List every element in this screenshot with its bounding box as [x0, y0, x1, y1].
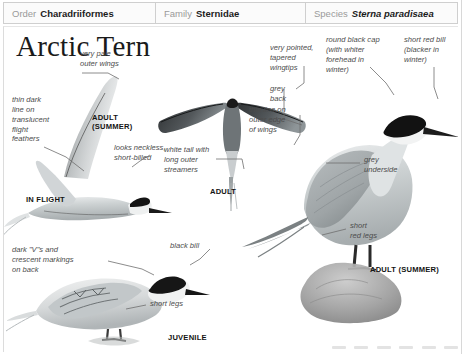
illustration-plate: Arctic Tern — [3, 26, 458, 352]
taxonomy-species-cell: Species Sterna paradisaea — [306, 3, 457, 23]
annotation-short-red-legs: short red legs — [350, 221, 377, 241]
taxonomy-species-key: Species — [314, 8, 348, 19]
bottom-dash — [444, 346, 458, 349]
annotation-dark-vs-crescents: dark "V"s and crescent markings on back — [12, 245, 74, 275]
bottom-dash — [354, 346, 368, 349]
bottom-dash — [399, 346, 413, 349]
annotation-thin-line-outer-edge: thin line on outer edge of wings — [249, 105, 286, 135]
annotation-grey-underside: grey underside — [364, 155, 397, 175]
plate-label-juvenile: JUVENILE — [168, 333, 207, 342]
annotation-very-pointed-wingtips: very pointed, tapered wingtips — [270, 43, 313, 73]
bottom-dash-row — [332, 344, 458, 351]
annotation-thin-dark-line: thin dark line on translucent flight fea… — [12, 95, 49, 144]
leader-short-red-bill — [434, 67, 438, 99]
leader-black-bill — [190, 249, 210, 265]
field-guide-plate: Order Charadriiformes Family Sternidae S… — [0, 0, 462, 354]
annotation-short-legs: short legs — [150, 299, 183, 309]
annotation-very-pale-outer-wings: very pale outer wings — [80, 49, 119, 69]
bottom-dash — [377, 346, 391, 349]
taxonomy-order-key: Order — [12, 8, 36, 19]
plate-label-adult-summer-flight: ADULT (SUMMER) — [92, 113, 132, 132]
annotation-white-tail-streamers: white tail with long outer streamers — [164, 145, 209, 175]
leader-dark-vs-crescents — [108, 261, 154, 275]
plate-label-adult-overhead: ADULT — [210, 187, 236, 196]
annotation-looks-neckless: looks neckless, short-billed — [114, 143, 166, 163]
annotation-round-black-cap: round black cap (with whiter forehead in… — [326, 35, 380, 74]
plate-label-adult-summer-perched: ADULT (SUMMER) — [370, 265, 439, 274]
taxonomy-family-value: Sternidae — [196, 8, 239, 19]
taxonomy-species-value: Sterna paradisaea — [352, 8, 434, 19]
taxonomy-bar: Order Charadriiformes Family Sternidae S… — [3, 2, 458, 24]
taxonomy-family-cell: Family Sternidae — [156, 3, 306, 23]
taxonomy-order-cell: Order Charadriiformes — [4, 3, 156, 23]
annotation-black-bill: black bill — [170, 241, 199, 251]
annotation-short-red-bill: short red bill (blacker in winter) — [404, 35, 445, 65]
bottom-dash — [422, 346, 436, 349]
taxonomy-order-value: Charadriiformes — [40, 8, 113, 19]
bird-perched-adult-summer — [242, 115, 458, 323]
taxonomy-family-key: Family — [164, 8, 192, 19]
plate-label-in-flight: IN FLIGHT — [26, 195, 65, 204]
annotation-grey-back: grey back — [270, 84, 286, 104]
bottom-dash — [332, 346, 346, 349]
